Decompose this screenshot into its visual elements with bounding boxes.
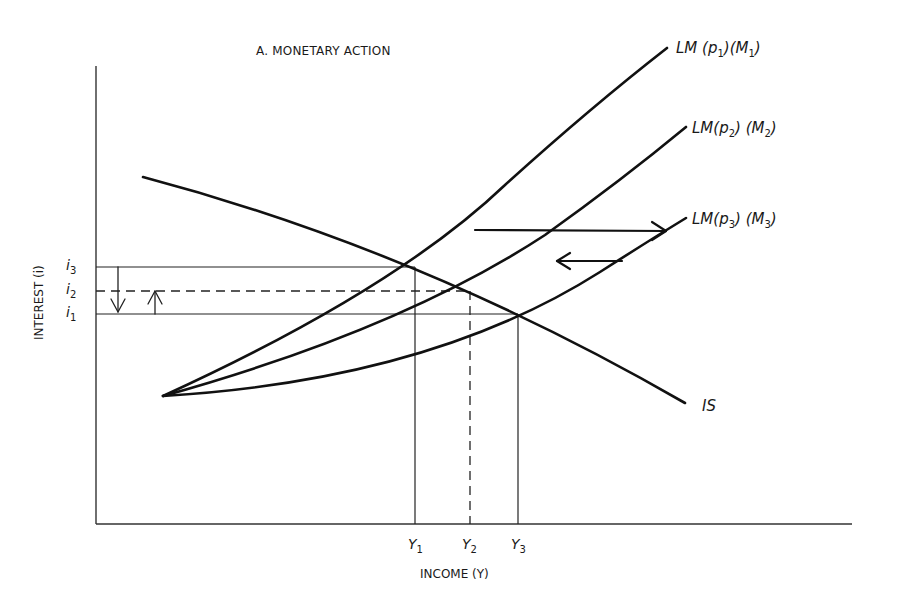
y1-tick-label: Y1	[408, 536, 423, 555]
y-axis-label: INTEREST (i)	[32, 265, 46, 340]
y3-tick-label: Y3	[511, 536, 526, 555]
lm-shift-left-arrow	[557, 253, 622, 269]
lm1-label: LM (p1)(M1)	[676, 39, 761, 59]
interest-up-arrow	[148, 291, 162, 314]
interest-down-arrow	[111, 267, 125, 312]
is-label: IS	[702, 397, 716, 415]
is-curve	[143, 177, 685, 403]
y2-tick-label: Y2	[462, 536, 477, 555]
lm3-label: LM(p3) (M3)	[692, 210, 777, 230]
is-lm-diagram: A. MONETARY ACTION INTEREST (i) INCOME (…	[0, 0, 898, 615]
x-axis-label: INCOME (Y)	[420, 567, 489, 581]
diagram-title: A. MONETARY ACTION	[256, 44, 391, 58]
i1-tick-label: i1	[66, 304, 76, 323]
lm3-curve	[163, 218, 686, 396]
lm-shift-right-arrow	[475, 222, 666, 240]
lm2-label: LM(p2) (M2)	[692, 119, 777, 139]
i2-tick-label: i2	[66, 281, 76, 300]
i3-tick-label: i3	[66, 257, 76, 276]
